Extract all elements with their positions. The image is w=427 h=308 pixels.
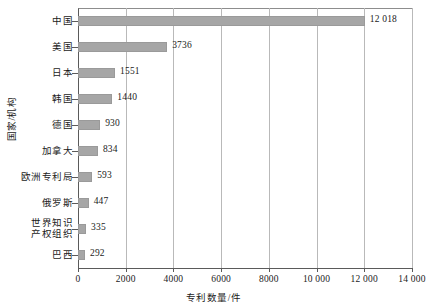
y-tick [72, 203, 78, 204]
y-tick [72, 151, 78, 152]
y-tick [72, 21, 78, 22]
x-tick [317, 268, 318, 272]
bar-row: 834加拿大 [0, 138, 427, 164]
bar-value-label: 1551 [120, 66, 140, 76]
bar-row: 292巴西 [0, 242, 427, 268]
bar-row: 335世界知识产权组织 [0, 216, 427, 242]
x-tick-label: 14 000 [398, 274, 425, 284]
bar [78, 42, 167, 52]
category-label: 中国 [52, 16, 73, 27]
y-tick [72, 73, 78, 74]
x-tick [412, 268, 413, 272]
x-tick-label: 6000 [211, 274, 231, 284]
bar [78, 68, 115, 78]
bar-row: 1551日本 [0, 60, 427, 86]
x-tick [78, 268, 79, 272]
x-tick-label: 2000 [116, 274, 136, 284]
bar-value-label: 3736 [172, 40, 192, 50]
category-label: 加拿大 [42, 146, 74, 157]
bar [78, 120, 100, 130]
bar-chart: 国家/机构 12 018中国3736美国1551日本1440韩国930德国834… [0, 0, 427, 308]
x-tick-label: 8000 [259, 274, 279, 284]
x-tick [173, 268, 174, 272]
bar-value-label: 930 [105, 118, 120, 128]
category-label: 俄罗斯 [42, 198, 74, 209]
bar [78, 198, 89, 208]
bar-row: 1440韩国 [0, 86, 427, 112]
x-tick [221, 268, 222, 272]
y-tick [72, 229, 78, 230]
x-axis-title: 专利数量/件 [0, 290, 427, 304]
y-tick [72, 255, 78, 256]
bar [78, 250, 85, 260]
x-tick [364, 268, 365, 272]
category-label: 世界知识产权组织 [31, 218, 73, 240]
x-tick-label: 4000 [164, 274, 184, 284]
bar-row: 447俄罗斯 [0, 190, 427, 216]
category-label: 欧洲专利局 [21, 172, 74, 183]
category-label: 巴西 [52, 250, 73, 261]
category-label: 韩国 [52, 94, 73, 105]
bar-value-label: 12 018 [370, 14, 397, 24]
y-tick [72, 125, 78, 126]
bar-value-label: 834 [103, 144, 118, 154]
bar-row: 593欧洲专利局 [0, 164, 427, 190]
x-tick [126, 268, 127, 272]
bar [78, 224, 86, 234]
y-tick [72, 177, 78, 178]
bar-value-label: 593 [97, 170, 112, 180]
x-tick-label: 12 000 [351, 274, 378, 284]
bar-value-label: 335 [91, 222, 106, 232]
x-axis-line [78, 268, 412, 269]
bar [78, 94, 112, 104]
bar-value-label: 1440 [117, 92, 137, 102]
bar-value-label: 292 [90, 248, 105, 258]
bar [78, 16, 365, 26]
bar [78, 172, 92, 182]
x-tick-label: 0 [76, 274, 81, 284]
bar-value-label: 447 [94, 196, 109, 206]
category-label: 德国 [52, 120, 73, 131]
bar-row: 930德国 [0, 112, 427, 138]
y-tick [72, 47, 78, 48]
category-label: 日本 [52, 68, 73, 79]
x-tick-label: 10 000 [303, 274, 330, 284]
bar-row: 3736美国 [0, 34, 427, 60]
bar [78, 146, 98, 156]
y-tick [72, 99, 78, 100]
bar-row: 12 018中国 [0, 8, 427, 34]
x-tick [269, 268, 270, 272]
category-label: 美国 [52, 42, 73, 53]
